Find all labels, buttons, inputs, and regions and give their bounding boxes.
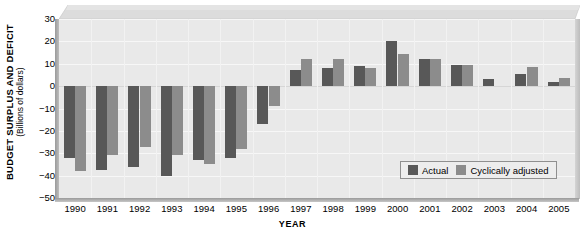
y-axis-tick-label: 30 xyxy=(44,13,55,24)
gridline-vertical xyxy=(253,19,254,198)
x-axis-tick-label: 1992 xyxy=(129,203,150,214)
x-axis-tick-label: 1995 xyxy=(226,203,247,214)
y-axis-tick-label: −50 xyxy=(39,192,55,203)
bar xyxy=(515,74,526,86)
x-axis-tick-label: 1993 xyxy=(161,203,182,214)
bar xyxy=(419,59,430,86)
gridline-vertical xyxy=(317,19,318,198)
bar-group xyxy=(160,19,183,198)
x-axis-tick-label: 2005 xyxy=(548,203,569,214)
bar xyxy=(398,54,409,86)
y-axis-title-block: BUDGET SURPLUS AND DEFICIT (Billions of … xyxy=(0,0,30,205)
chart-3d-top-face xyxy=(59,5,580,19)
y-axis-title-rotated: BUDGET SURPLUS AND DEFICIT (Billions of … xyxy=(5,25,25,181)
legend-label: Actual xyxy=(422,165,448,176)
bar xyxy=(64,86,75,158)
legend-swatch-icon xyxy=(408,165,418,175)
gridline-vertical xyxy=(91,19,92,198)
legend-label: Cyclically adjusted xyxy=(470,165,548,176)
bar xyxy=(301,59,312,86)
bar-group xyxy=(225,19,248,198)
bar xyxy=(290,70,301,86)
bar xyxy=(204,86,215,164)
bar xyxy=(236,86,247,149)
bar xyxy=(559,78,570,86)
y-axis-tick-label: −30 xyxy=(39,147,55,158)
bar xyxy=(322,68,333,86)
x-axis-title: YEAR xyxy=(0,219,585,229)
legend-item: Actual xyxy=(408,165,448,176)
bar xyxy=(365,68,376,86)
x-axis-tick-label: 1997 xyxy=(290,203,311,214)
bar xyxy=(333,59,344,86)
bar xyxy=(527,67,538,86)
y-axis-tick-label: −20 xyxy=(39,124,55,135)
x-axis-tick-label: 2001 xyxy=(419,203,440,214)
gridline-vertical xyxy=(156,19,157,198)
gridline-vertical xyxy=(349,19,350,198)
x-axis-tick-label: 1998 xyxy=(323,203,344,214)
chart-bottom-wall xyxy=(55,198,579,202)
bar xyxy=(462,65,473,86)
bar xyxy=(96,86,107,170)
x-axis-tick-labels: 1990199119921993199419951996199719981999… xyxy=(59,203,575,217)
bar xyxy=(430,59,441,86)
bar xyxy=(75,86,86,171)
x-axis-tick-label: 1990 xyxy=(65,203,86,214)
bar xyxy=(107,86,118,155)
y-axis-tick-label: 20 xyxy=(44,35,55,46)
bar xyxy=(451,65,462,86)
bar xyxy=(225,86,236,158)
bar-group xyxy=(128,19,151,198)
chart-legend: ActualCyclically adjusted xyxy=(400,161,557,179)
bar xyxy=(386,41,397,86)
gridline-vertical xyxy=(188,19,189,198)
bar-group xyxy=(322,19,345,198)
x-axis-tick-label: 2000 xyxy=(387,203,408,214)
gridline-vertical xyxy=(124,19,125,198)
bar xyxy=(172,86,183,155)
bar xyxy=(257,86,268,124)
bar xyxy=(140,86,151,146)
y-axis-tick-label: 10 xyxy=(44,57,55,68)
bar xyxy=(548,82,559,86)
bar xyxy=(354,66,365,86)
x-axis-tick-label: 1994 xyxy=(194,203,215,214)
x-axis-tick-label: 2002 xyxy=(452,203,473,214)
y-axis-tick-labels: 3020100−10−20−30−40−50 xyxy=(30,18,58,198)
chart-figure: BUDGET SURPLUS AND DEFICIT (Billions of … xyxy=(0,0,585,237)
bar-group xyxy=(289,19,312,198)
y-axis-tick-label: −40 xyxy=(39,169,55,180)
x-axis-tick-label: 1996 xyxy=(258,203,279,214)
y-axis-tick-label: −10 xyxy=(39,102,55,113)
chart-right-wall xyxy=(575,19,580,199)
bar xyxy=(483,79,494,86)
bar-group xyxy=(64,19,87,198)
x-axis-tick-label: 1999 xyxy=(355,203,376,214)
bar xyxy=(193,86,204,160)
x-axis-tick-label: 2003 xyxy=(484,203,505,214)
bar-group xyxy=(354,19,377,198)
bar-group xyxy=(257,19,280,198)
y-axis-units: (Billions of dollars) xyxy=(16,25,26,181)
bar xyxy=(161,86,172,176)
x-axis-tick-label: 1991 xyxy=(97,203,118,214)
bar xyxy=(269,86,280,106)
gridline-vertical xyxy=(382,19,383,198)
legend-item: Cyclically adjusted xyxy=(456,165,548,176)
gridline-vertical xyxy=(285,19,286,198)
legend-swatch-icon xyxy=(456,165,466,175)
gridline-vertical xyxy=(220,19,221,198)
x-axis-tick-label: 2004 xyxy=(516,203,537,214)
bar xyxy=(128,86,139,167)
bar-group xyxy=(96,19,119,198)
bar-group xyxy=(193,19,216,198)
